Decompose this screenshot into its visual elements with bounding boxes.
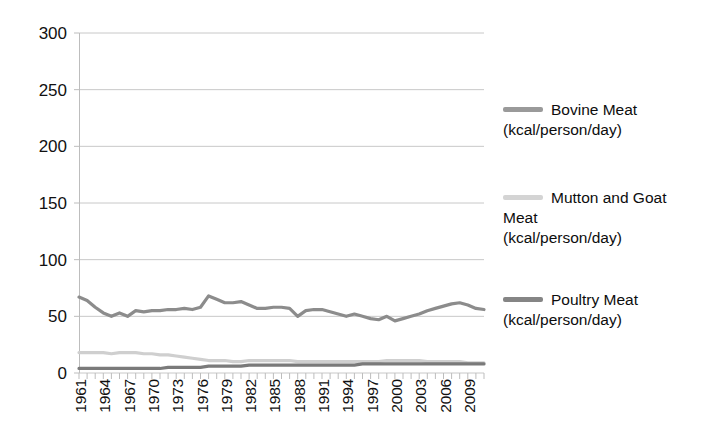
x-tick-label: 2006	[438, 379, 454, 413]
series-line-1	[79, 296, 484, 321]
chart-figure: 050100150200250300 196119641967197019731…	[0, 0, 721, 447]
x-tick-label: 1973	[170, 379, 186, 413]
x-tick-label: 1994	[340, 379, 356, 413]
y-tick-label: 150	[39, 195, 67, 212]
legend-entry-1[interactable]: Bovine Meat (kcal/person/day)	[503, 100, 718, 140]
y-tick-label: 0	[58, 365, 67, 382]
legend-swatch-icon	[503, 297, 543, 302]
legend-swatch-icon	[503, 195, 543, 200]
plot-area	[79, 33, 484, 373]
y-axis-tick-labels: 050100150200250300	[0, 0, 79, 447]
x-axis-tick-labels: 1961196419671970197319761979198219851988…	[79, 379, 484, 447]
x-tick-label: 1970	[146, 379, 162, 413]
x-tick-label: 1979	[219, 379, 235, 413]
x-tick-label: 1961	[73, 379, 89, 413]
y-tick-label: 50	[48, 308, 67, 325]
x-tick-label: 1967	[122, 379, 138, 413]
x-tick-label: 1991	[316, 379, 332, 413]
x-tick-label: 1985	[267, 379, 283, 413]
x-tick-label: 1964	[97, 379, 113, 413]
x-tick-label: 1976	[195, 379, 211, 413]
x-tick-label: 2009	[462, 379, 478, 413]
legend-entry-3[interactable]: Poultry Meat (kcal/person/day)	[503, 290, 718, 330]
legend-swatch-icon	[503, 107, 543, 112]
x-tick-label: 1988	[292, 379, 308, 413]
y-tick-label: 100	[39, 251, 67, 268]
x-tick-label: 2000	[389, 379, 405, 413]
series-line-3	[79, 364, 484, 369]
y-tick-label: 250	[39, 81, 67, 98]
data-series-group	[79, 33, 484, 373]
y-tick-label: 200	[39, 138, 67, 155]
y-tick-label: 300	[39, 25, 67, 42]
legend-entry-2[interactable]: Mutton and Goat Meat (kcal/person/day)	[503, 188, 718, 248]
x-tick-label: 1997	[365, 379, 381, 413]
x-tick-label: 1982	[243, 379, 259, 413]
series-line-2	[79, 353, 484, 363]
x-tick-label: 2003	[413, 379, 429, 413]
